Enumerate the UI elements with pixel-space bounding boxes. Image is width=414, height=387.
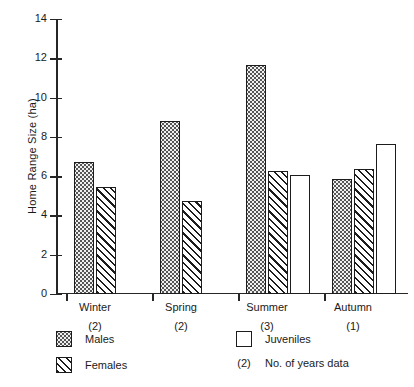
bar-males-autumn (332, 179, 352, 294)
y-axis-tick-mark (50, 176, 62, 177)
legend-item-no-of-years-data: (2)No. of years data (236, 357, 349, 369)
legend-label: Juveniles (265, 333, 311, 345)
bar-females-winter (96, 187, 116, 294)
legend-years-note-marker: (2) (236, 357, 252, 369)
y-axis-tick-mark (50, 98, 62, 99)
bar-females-autumn (354, 169, 374, 294)
bar-males-spring (160, 121, 180, 294)
legend-swatch-hatched (56, 357, 72, 373)
chart-legend: MalesFemalesJuveniles(2)No. of years dat… (56, 331, 414, 383)
y-axis-tick-label: 2 (41, 248, 47, 260)
legend-swatch-open (236, 331, 252, 347)
legend-label: Males (85, 333, 114, 345)
y-axis-tick-label: 14 (35, 12, 47, 24)
legend-item-females: Females (56, 357, 127, 373)
bar-females-summer (268, 171, 288, 294)
y-axis-tick-mark (50, 215, 62, 216)
y-axis-tick-label: 0 (41, 287, 47, 299)
y-axis-tick-label: 4 (41, 208, 47, 220)
legend-swatch-dotted (56, 331, 72, 347)
y-axis-tick-mark (50, 294, 62, 295)
x-axis-tick-mark (238, 293, 240, 301)
y-axis-line (56, 19, 58, 294)
bar-juveniles-autumn (376, 144, 396, 294)
bar-juveniles-summer (290, 175, 310, 294)
y-axis-tick-label: 8 (41, 130, 47, 142)
y-axis-tick-label: 6 (41, 169, 47, 181)
plot-area: 14121086420 (56, 19, 408, 294)
x-axis-group-name: Summer (224, 301, 310, 313)
y-axis-tick-label: 12 (35, 51, 47, 63)
y-axis-tick-label: 10 (35, 91, 47, 103)
x-axis-group-name: Spring (138, 301, 224, 313)
legend-label: Females (85, 359, 127, 371)
legend-item-males: Males (56, 331, 114, 347)
x-axis-group-name: Winter (52, 301, 138, 313)
y-axis-tick-mark (50, 137, 62, 138)
y-axis-tick-mark (50, 58, 62, 59)
x-axis-group-name: Autumn (310, 301, 396, 313)
home-range-size-bar-chart: Home Range Size (ha) 14121086420 Winter(… (0, 0, 414, 387)
bar-males-winter (74, 162, 94, 294)
y-axis-tick-mark (50, 19, 62, 20)
bar-females-spring (182, 201, 202, 294)
x-axis-tick-mark (324, 293, 326, 301)
legend-item-juveniles: Juveniles (236, 331, 311, 347)
bar-males-summer (246, 65, 266, 294)
y-axis-tick-mark (50, 255, 62, 256)
x-axis-tick-mark (152, 293, 154, 301)
x-axis-tick-mark (66, 293, 68, 301)
legend-label: No. of years data (265, 357, 349, 369)
